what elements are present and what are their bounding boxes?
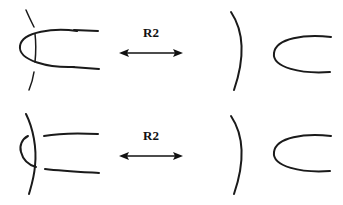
top-left-arc-under-segment-middle xyxy=(35,34,36,62)
top-right-u-strand xyxy=(274,36,331,72)
bottom-left-tangle-crossing xyxy=(20,114,99,194)
bottom-row-move-label: R2 xyxy=(143,128,159,143)
reidemeister-r2-figure: R2 R2 xyxy=(0,0,343,205)
top-left-u-strand-over xyxy=(20,30,77,67)
top-row-move-label: R2 xyxy=(143,25,159,40)
bottom-right-tangle-separated xyxy=(231,116,331,194)
top-row-r2-arrow-group: R2 xyxy=(119,25,183,57)
top-left-arc-under-segment-bottom xyxy=(29,72,34,90)
bottom-left-arc-over xyxy=(26,114,36,194)
diagram-canvas: R2 R2 xyxy=(0,0,343,205)
top-left-arc-under-segment-top xyxy=(26,10,34,27)
top-right-vertical-arc xyxy=(231,12,242,90)
top-right-tangle-separated xyxy=(231,12,331,90)
bottom-left-u-upper-tail-under xyxy=(44,133,98,136)
top-left-u-lower-tail xyxy=(72,67,99,69)
bottom-right-vertical-arc xyxy=(231,116,242,194)
top-left-u-upper-tail xyxy=(74,30,98,31)
bottom-row-r2-arrow-group: R2 xyxy=(119,128,183,160)
bottom-right-u-strand xyxy=(274,135,331,171)
bottom-left-u-lower-tail-under xyxy=(45,169,99,173)
top-left-tangle-crossing xyxy=(20,10,99,90)
